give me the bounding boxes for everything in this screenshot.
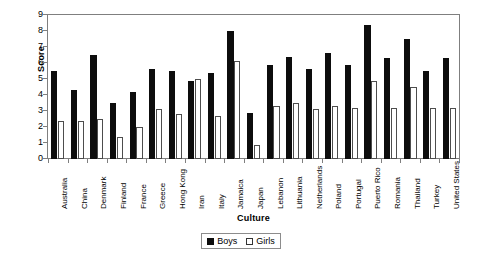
x-tick-label: Lithuania	[296, 177, 304, 209]
x-tick-label: Japan	[257, 187, 265, 209]
x-tick-label: France	[140, 184, 148, 209]
x-tick-label: Denmark	[100, 177, 108, 209]
bar-girls	[371, 81, 377, 159]
bar-group	[322, 15, 342, 159]
y-tick-label: 6	[7, 58, 47, 67]
bar-group	[224, 15, 244, 159]
x-tick-label: Romania	[394, 177, 402, 209]
legend-item-boys: Boys	[207, 236, 237, 246]
bar-boys	[306, 69, 312, 159]
x-tick-label: Portugal	[355, 179, 363, 209]
y-tick-label: 4	[7, 90, 47, 99]
bar-boys	[267, 65, 273, 159]
bar-girls	[273, 106, 279, 159]
x-axis-title: Culture	[47, 213, 460, 223]
bar-boys	[169, 71, 175, 159]
bar-girls	[410, 87, 416, 159]
bar-group	[185, 15, 205, 159]
bar-boys	[443, 58, 449, 159]
x-tick-label: United States	[453, 161, 461, 209]
bar-boys	[404, 39, 410, 159]
legend-swatch-boys-icon	[207, 238, 214, 245]
bar-chart: Score 0123456789 AustraliaChinaDenmarkFi…	[0, 0, 482, 265]
y-tick-label: 9	[7, 10, 47, 19]
bar-boys	[345, 65, 351, 159]
x-tick-label: Turkey	[433, 185, 441, 209]
x-tick-label: Hong Kong	[179, 169, 187, 209]
bar-group	[205, 15, 225, 159]
bar-boys	[423, 71, 429, 159]
bar-boys	[149, 69, 155, 159]
legend: Boys Girls	[0, 233, 482, 249]
bar-group	[361, 15, 381, 159]
bar-group	[165, 15, 185, 159]
legend-label-girls: Girls	[256, 236, 275, 246]
y-tick-label: 8	[7, 26, 47, 35]
bar-girls	[58, 121, 64, 159]
x-tick-label: Lebanon	[277, 178, 285, 209]
y-tick-label: 2	[7, 122, 47, 131]
bar-group	[381, 15, 401, 159]
bar-girls	[136, 127, 142, 159]
bar-girls	[117, 137, 123, 159]
bar-girls	[391, 108, 397, 159]
bar-group	[107, 15, 127, 159]
bar-girls	[430, 108, 436, 159]
x-tick-label: Poland	[335, 184, 343, 209]
bar-group	[244, 15, 264, 159]
x-tick-label: Thailand	[414, 178, 422, 209]
bar-girls	[254, 145, 260, 159]
bar-group	[263, 15, 283, 159]
x-tick-label: Australia	[61, 178, 69, 209]
legend-box: Boys Girls	[201, 233, 281, 249]
bar-girls	[450, 108, 456, 159]
bar-boys	[51, 71, 57, 159]
x-axis-labels: AustraliaChinaDenmarkFinlandFranceGreece…	[48, 163, 459, 211]
x-tick-label: Greece	[159, 183, 167, 209]
bar-boys	[71, 90, 77, 159]
x-tick-label: Iran	[198, 195, 206, 209]
bar-boys	[286, 57, 292, 159]
legend-label-boys: Boys	[217, 236, 237, 246]
bar-girls	[332, 106, 338, 159]
bars-layer	[48, 15, 459, 159]
bar-boys	[247, 113, 253, 159]
bar-boys	[384, 58, 390, 159]
legend-item-girls: Girls	[246, 236, 275, 246]
bar-boys	[90, 55, 96, 159]
x-tick-label: Jamaica	[237, 179, 245, 209]
x-tick-label: Netherlands	[316, 166, 324, 209]
y-tick-label: 7	[7, 42, 47, 51]
bar-girls	[156, 109, 162, 159]
bar-girls	[352, 108, 358, 159]
bar-group	[342, 15, 362, 159]
bar-group	[48, 15, 68, 159]
bar-girls	[78, 121, 84, 159]
legend-swatch-girls-icon	[246, 238, 253, 245]
y-axis-ticks: 0123456789	[0, 14, 47, 159]
bar-boys	[208, 73, 214, 159]
bar-girls	[195, 79, 201, 159]
bar-group	[420, 15, 440, 159]
bar-girls	[234, 61, 240, 159]
bar-boys	[227, 31, 233, 159]
bar-group	[87, 15, 107, 159]
bar-boys	[130, 92, 136, 159]
bar-group	[439, 15, 459, 159]
x-tick-label: Finland	[120, 183, 128, 209]
bar-group	[283, 15, 303, 159]
bar-girls	[215, 116, 221, 159]
bar-girls	[97, 119, 103, 159]
y-tick-label: 0	[7, 154, 47, 163]
bar-boys	[364, 25, 370, 159]
bar-girls	[313, 109, 319, 159]
y-tick-label: 3	[7, 106, 47, 115]
x-tick-label: Italy	[218, 194, 226, 209]
x-tick-label: Puerto Rico	[374, 167, 382, 209]
y-tick-label: 5	[7, 74, 47, 83]
bar-boys	[325, 53, 331, 159]
y-tick-label: 1	[7, 138, 47, 147]
bar-group	[302, 15, 322, 159]
bar-group	[146, 15, 166, 159]
bar-group	[68, 15, 88, 159]
